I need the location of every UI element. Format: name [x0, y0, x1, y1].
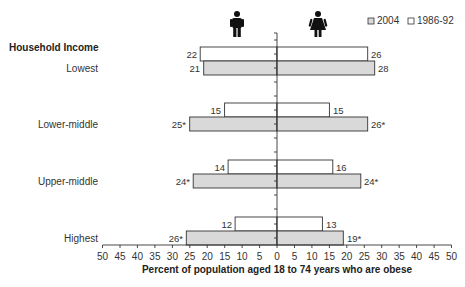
value-label: 12 — [221, 219, 232, 230]
row-header: Household Income — [9, 42, 99, 53]
category-label: Lowest — [66, 63, 98, 74]
x-tick: 40 — [132, 251, 144, 262]
x-axis — [103, 245, 452, 248]
value-label: 28 — [378, 63, 389, 74]
bar-men-2004-lower-middle — [190, 117, 277, 131]
man-icon — [230, 11, 244, 37]
bar-women-1986-upper-middle — [277, 160, 333, 174]
x-tick: 15 — [219, 251, 231, 262]
bars — [186, 47, 374, 245]
x-tick: 30 — [376, 251, 388, 262]
x-tick: 25 — [184, 251, 196, 262]
category-label: Lower-middle — [38, 119, 98, 130]
x-tick: 45 — [429, 251, 441, 262]
x-tick: 30 — [167, 251, 179, 262]
x-tick: 25 — [359, 251, 371, 262]
bar-men-1986-upper-middle — [228, 160, 277, 174]
x-tick: 35 — [149, 251, 161, 262]
bar-women-2004-highest — [277, 231, 343, 245]
x-tick: 40 — [411, 251, 423, 262]
value-labels: 22 26 21 28 15 15 25* 26* 14 16 24* 24* … — [169, 49, 389, 244]
x-tick-labels: 50 45 40 35 30 25 20 15 10 5 0 5 10 15 2… — [97, 251, 458, 262]
bar-women-2004-lower-middle — [277, 117, 368, 131]
value-label: 24* — [364, 176, 379, 187]
bar-men-2004-lowest — [204, 61, 277, 75]
x-tick: 10 — [237, 251, 249, 262]
x-tick: 50 — [97, 251, 109, 262]
value-label: 15 — [210, 105, 221, 116]
woman-icon — [308, 11, 327, 37]
obesity-income-chart: Household Income Lowest Lower-middle Upp… — [0, 0, 465, 287]
legend-label: 1986-92 — [417, 15, 454, 26]
x-tick: 10 — [306, 251, 318, 262]
value-label: 15 — [333, 105, 344, 116]
value-label: 19* — [347, 233, 362, 244]
value-label: 26* — [169, 233, 184, 244]
x-tick: 0 — [274, 251, 280, 262]
legend: 2004 1986-92 — [368, 15, 454, 26]
bar-women-1986-lower-middle — [277, 103, 329, 117]
x-axis-label: Percent of population aged 18 to 74 year… — [142, 264, 413, 275]
value-label: 21 — [189, 63, 200, 74]
bar-women-1986-highest — [277, 217, 322, 231]
legend-label: 2004 — [377, 15, 400, 26]
value-label: 24* — [176, 176, 191, 187]
bar-men-2004-highest — [186, 231, 277, 245]
bar-women-1986-lowest — [277, 47, 368, 61]
x-tick: 5 — [257, 251, 263, 262]
bar-men-1986-lowest — [200, 47, 277, 61]
value-label: 14 — [214, 162, 225, 173]
x-tick: 15 — [324, 251, 336, 262]
bar-men-1986-highest — [235, 217, 277, 231]
category-labels: Lowest Lower-middle Upper-middle Highest — [38, 63, 98, 244]
legend-swatch-1986-92 — [408, 18, 414, 24]
value-label: 26* — [371, 119, 386, 130]
category-label: Highest — [64, 233, 98, 244]
value-label: 13 — [326, 219, 337, 230]
x-tick: 20 — [202, 251, 214, 262]
bar-women-2004-upper-middle — [277, 174, 361, 188]
category-label: Upper-middle — [38, 176, 98, 187]
value-label: 25* — [172, 119, 187, 130]
bar-women-2004-lowest — [277, 61, 375, 75]
x-tick: 45 — [114, 251, 126, 262]
x-tick: 5 — [292, 251, 298, 262]
value-label: 16 — [336, 162, 347, 173]
bar-men-1986-lower-middle — [225, 103, 277, 117]
bar-men-2004-upper-middle — [193, 174, 277, 188]
x-tick: 35 — [394, 251, 406, 262]
x-tick: 50 — [446, 251, 458, 262]
legend-swatch-2004 — [368, 18, 374, 24]
value-label: 26 — [371, 49, 382, 60]
value-label: 22 — [186, 49, 197, 60]
x-tick: 20 — [341, 251, 353, 262]
